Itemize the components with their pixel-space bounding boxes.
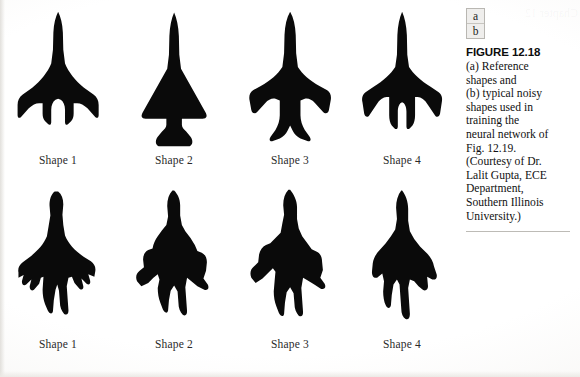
noisy-aircraft-silhouette-solid-icon xyxy=(116,188,232,326)
caption-line: shapes used in xyxy=(466,101,578,115)
shape-cell: Shape 4 xyxy=(344,4,460,179)
caption-line: Lalit Gupta, ECE xyxy=(466,169,578,183)
caption-line: Department, xyxy=(466,182,578,196)
caption-line: shapes and xyxy=(466,74,578,88)
aircraft-silhouette-swept-wing-icon xyxy=(232,10,348,148)
figure-heading: FIGURE 12.18 xyxy=(466,46,578,59)
caption-line: Fig. 12.19. xyxy=(466,142,578,156)
caption-line: (b) typical noisy xyxy=(466,87,578,101)
shape-label: Shape 1 xyxy=(0,338,116,350)
shape-label: Shape 2 xyxy=(116,338,232,350)
shape-cell: Shape 1 xyxy=(0,182,116,357)
noisy-aircraft-silhouette-swept-wing-icon xyxy=(232,188,348,326)
shape-label: Shape 1 xyxy=(0,154,116,166)
reference-shapes-row: Shape 1 Shape 2 Shape 3 Shape 4 xyxy=(0,4,462,179)
caption-line: University.) xyxy=(466,210,578,224)
panel-key-a: a xyxy=(467,9,484,24)
shape-cell: Shape 3 xyxy=(232,4,348,179)
figure-caption-text: (a) Reference shapes and (b) typical noi… xyxy=(466,60,578,223)
caption-line: neural network of xyxy=(466,128,578,142)
panel-key-b: b xyxy=(467,24,484,38)
figure-caption-column: a b FIGURE 12.18 (a) Reference shapes an… xyxy=(466,8,578,232)
aircraft-silhouette-trident-icon xyxy=(344,10,460,148)
shape-cell: Shape 2 xyxy=(116,182,232,357)
shape-label: Shape 3 xyxy=(232,338,348,350)
shape-label: Shape 4 xyxy=(344,338,460,350)
caption-line: Southern Illinois xyxy=(466,196,578,210)
caption-line: training the xyxy=(466,114,578,128)
shape-cell: Shape 3 xyxy=(232,182,348,357)
shape-cell: Shape 4 xyxy=(344,182,460,357)
aircraft-silhouette-solid-triangle-icon xyxy=(116,10,232,148)
figure-page: Chapter 12 Shape 1 Shape 2 Shape 3 xyxy=(0,0,580,377)
noisy-aircraft-silhouette-trident-icon xyxy=(344,188,460,326)
caption-line: (a) Reference xyxy=(466,60,578,74)
shape-cell: Shape 1 xyxy=(0,4,116,179)
shape-label: Shape 3 xyxy=(232,154,348,166)
panel-key-box: a b xyxy=(466,8,485,39)
caption-line: (Courtesy of Dr. xyxy=(466,155,578,169)
aircraft-silhouette-delta-wing-icon xyxy=(0,10,116,148)
figure-image-panel: Shape 1 Shape 2 Shape 3 Shape 4 xyxy=(0,0,462,377)
shape-label: Shape 4 xyxy=(344,154,460,166)
caption-divider-rule xyxy=(466,231,570,232)
shape-label: Shape 2 xyxy=(116,154,232,166)
noisy-aircraft-silhouette-delta-wing-icon xyxy=(0,188,116,326)
shape-cell: Shape 2 xyxy=(116,4,232,179)
noisy-shapes-row: Shape 1 Shape 2 Shape 3 Shape 4 xyxy=(0,182,462,357)
